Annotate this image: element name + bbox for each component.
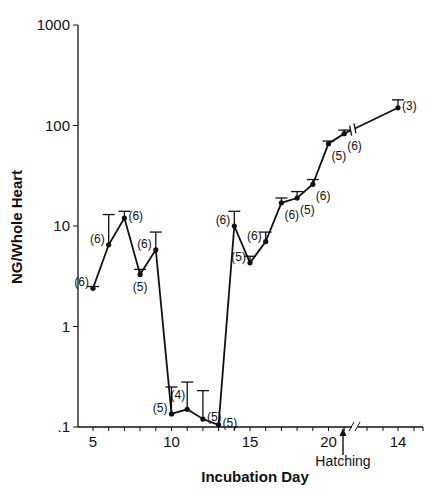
- y-tick-label: 100: [45, 117, 70, 134]
- data-point: [106, 242, 111, 247]
- data-point: [138, 272, 143, 277]
- x-tick-label: 20: [320, 433, 337, 450]
- sample-size-label: (5): [153, 401, 168, 415]
- data-point: [342, 131, 347, 136]
- sample-size-label: (5): [223, 416, 238, 430]
- line-chart: .11101001000510152014 (6)(6)(6)(5)(6)(5)…: [0, 0, 438, 498]
- data-point: [122, 215, 127, 220]
- sample-size-label: (6): [74, 275, 89, 289]
- sample-size-label: (6): [247, 229, 262, 243]
- sample-size-label: (6): [216, 213, 231, 227]
- y-axis-title: NG/Whole Heart: [8, 170, 25, 284]
- sample-size-label: (6): [90, 232, 105, 246]
- series-line: [355, 108, 398, 129]
- x-axis-title: Incubation Day: [201, 468, 309, 485]
- data-point: [216, 422, 221, 427]
- data-point: [395, 105, 400, 110]
- x-tick-label: 14: [390, 433, 407, 450]
- data-point: [279, 200, 284, 205]
- sample-size-label: (4): [171, 388, 186, 402]
- data-point: [247, 260, 252, 265]
- data-point: [263, 239, 268, 244]
- series-line: [93, 134, 344, 425]
- x-tick-label: 10: [163, 433, 180, 450]
- sample-size-label: (6): [347, 139, 362, 153]
- data-point: [200, 416, 205, 421]
- sample-size-label: (5): [300, 203, 315, 217]
- y-tick-label: 1000: [37, 16, 70, 33]
- data-series: (6)(6)(6)(5)(6)(5)(4)(5)(5)(6)(5)(6)(6)(…: [74, 99, 416, 430]
- sample-size-label: (6): [316, 189, 331, 203]
- sample-size-label: (3): [402, 99, 417, 113]
- data-point: [185, 407, 190, 412]
- sample-size-label: (5): [133, 280, 148, 294]
- hatching-label: Hatching: [315, 453, 370, 469]
- data-point: [153, 247, 158, 252]
- sample-size-label: (6): [284, 208, 299, 222]
- data-point: [90, 286, 95, 291]
- y-tick-label: 1: [62, 318, 70, 335]
- data-point: [326, 141, 331, 146]
- sample-size-label: (5): [231, 250, 246, 264]
- sample-size-label: (5): [332, 149, 347, 163]
- sample-size-label: (6): [137, 237, 152, 251]
- x-tick-label: 15: [242, 433, 259, 450]
- sample-size-label: (5): [207, 410, 222, 424]
- sample-size-label: (6): [128, 209, 143, 223]
- data-point: [310, 182, 315, 187]
- x-tick-label: 5: [89, 433, 97, 450]
- y-tick-label: 10: [53, 217, 70, 234]
- data-point: [295, 195, 300, 200]
- y-tick-label: .1: [57, 418, 70, 435]
- arrow-head-icon: [340, 428, 347, 436]
- data-point: [232, 223, 237, 228]
- data-point: [169, 411, 174, 416]
